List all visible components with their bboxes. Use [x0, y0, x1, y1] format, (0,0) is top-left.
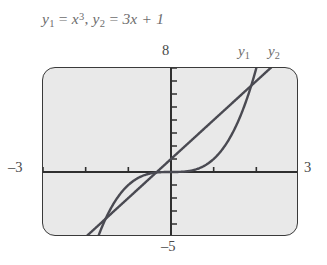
caption-y2-expression: 3x + 1: [122, 10, 164, 27]
curve-label-y2-variable: y: [268, 43, 275, 59]
curve-label-y1: y1: [238, 43, 250, 61]
equation-caption: y1 = x3, y2 = 3x + 1: [42, 10, 164, 29]
curve-label-y2-subscript: 2: [275, 50, 280, 61]
curve-label-y1-subscript: 1: [245, 50, 250, 61]
graphing-calculator-figure: y1 = x3, y2 = 3x + 1 8 –5 –3 3 y1 y2: [0, 0, 327, 265]
curves-group: [58, 68, 298, 236]
curve-y2: [58, 68, 298, 236]
graph-viewport-frame: [42, 67, 298, 236]
caption-equals-2: =: [105, 10, 122, 27]
curve-label-y1-variable: y: [238, 43, 245, 59]
caption-equals-1: =: [55, 10, 72, 27]
caption-comma: ,: [84, 10, 92, 27]
axes-group: [43, 68, 298, 236]
axis-label-ymin: –5: [161, 238, 176, 255]
caption-y2-variable: y: [93, 10, 100, 27]
axis-label-xmax: 3: [304, 159, 311, 176]
axis-label-ymax: 8: [162, 42, 169, 59]
caption-y1-expression-base: x: [72, 10, 79, 27]
plot-canvas: [43, 68, 298, 236]
axis-label-xmin: –3: [8, 159, 23, 176]
curve-label-y2: y2: [268, 43, 280, 61]
